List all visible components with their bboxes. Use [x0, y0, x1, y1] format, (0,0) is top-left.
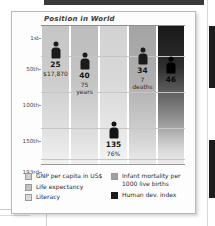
- bar-rank-life-expectancy: 40: [76, 72, 93, 81]
- chart-title: Position in World: [44, 15, 115, 23]
- legend-swatch-icon-life-expectancy: [25, 184, 32, 191]
- bar-unit-infant-mortality: deaths: [132, 83, 152, 90]
- bar-life-expectancy[interactable]: [70, 25, 99, 165]
- bar-rank-literacy: 135: [106, 141, 121, 150]
- y-tick-label-100th: 100th: [23, 102, 39, 108]
- person-icon-literacy: [109, 122, 118, 139]
- legend-swatch-icon-infant-mortality: [111, 173, 118, 180]
- bar-infant-mortality[interactable]: [128, 25, 157, 165]
- gridline-100th: [41, 92, 185, 93]
- bar-rank-gnp: 25: [43, 61, 68, 70]
- bar-human-dev-index[interactable]: [157, 25, 185, 165]
- person-icon-infant-mortality: [138, 48, 147, 65]
- person-icon-gnp: [51, 42, 60, 59]
- legend-item-life-expectancy[interactable]: Life expectancy: [25, 183, 111, 191]
- page-edge-line-bottom: [0, 215, 30, 216]
- chart-legend: GNP per capita in US$ Life expectancy Li…: [25, 172, 190, 210]
- legend-label-gnp: GNP per capita in US$: [36, 172, 102, 180]
- chart-figure-card: Position in World 1st 50th 100th 150th 1…: [11, 11, 196, 214]
- bar-rank-infant-mortality: 34: [132, 67, 152, 76]
- scrollbar-thumb-upper[interactable]: [209, 26, 215, 88]
- legend-swatch-icon-literacy: [25, 194, 32, 201]
- legend-item-infant-mortality[interactable]: Infant mortality per 1000 live births: [111, 172, 191, 188]
- bar-value-gnp: 25 $17,870: [43, 61, 68, 77]
- legend-label-life-expectancy: Life expectancy: [36, 183, 83, 191]
- plot-bottom-axis-line: [41, 164, 185, 165]
- bar-amount-gnp: $17,870: [43, 70, 68, 77]
- y-tick-label-1st: 1st: [30, 35, 39, 41]
- legend-item-human-dev-index[interactable]: Human dev. index: [111, 191, 191, 199]
- bar-value-life-expectancy: 40 75 years: [76, 72, 93, 95]
- plot-top-axis-line: [41, 25, 185, 26]
- legend-item-gnp[interactable]: GNP per capita in US$: [25, 172, 111, 180]
- y-tick-label-150th: 150th: [23, 138, 39, 144]
- scrollbar-thumb-lower[interactable]: [209, 140, 215, 198]
- y-axis: 1st 50th 100th 150th 193rd: [12, 25, 39, 165]
- window-top-bar: [44, 0, 204, 5]
- bar-rank-human-dev-index: 46: [166, 76, 176, 85]
- bar-value-literacy: 135 76%: [106, 141, 121, 157]
- plot-area: 25 $17,870 40 75 years 135 76% 34 7 deat…: [41, 25, 185, 165]
- person-icon-life-expectancy: [80, 53, 89, 70]
- person-icon-human-dev-index: [167, 57, 176, 74]
- bar-value-infant-mortality: 34 7 deaths: [132, 67, 152, 90]
- legend-column-left: GNP per capita in US$ Life expectancy Li…: [25, 172, 111, 204]
- legend-label-infant-mortality: Infant mortality per 1000 live births: [122, 172, 191, 188]
- bar-amount-life-expectancy: 75: [76, 81, 93, 88]
- legend-swatch-icon-gnp: [25, 173, 32, 180]
- y-tick-label-50th: 50th: [26, 66, 39, 72]
- gridline-50th: [41, 56, 185, 57]
- legend-column-right: Infant mortality per 1000 live births Hu…: [111, 172, 191, 201]
- legend-swatch-icon-human-dev-index: [111, 192, 118, 199]
- bar-unit-life-expectancy: years: [76, 88, 93, 95]
- legend-item-literacy[interactable]: Literacy: [25, 193, 111, 201]
- scrollbar-track[interactable]: [207, 0, 215, 226]
- legend-label-literacy: Literacy: [36, 193, 60, 201]
- bar-amount-infant-mortality: 7: [132, 76, 152, 83]
- bar-value-human-dev-index: 46: [166, 76, 176, 85]
- legend-label-human-dev-index: Human dev. index: [122, 191, 176, 199]
- gridline-193rd: [41, 159, 185, 160]
- bar-amount-literacy: 76%: [106, 150, 121, 157]
